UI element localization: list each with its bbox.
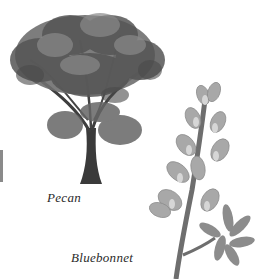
bluebonnet-caption: Bluebonnet [71, 250, 133, 266]
pecan-caption: Pecan [47, 190, 81, 206]
pecan-tree-illustration [10, 13, 165, 184]
bluebonnet-illustration [147, 81, 255, 279]
illustration-canvas [0, 0, 255, 279]
partial-illustration-edge [0, 150, 3, 182]
